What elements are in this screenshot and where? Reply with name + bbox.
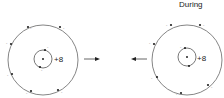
left-atom: +8 - - - - - - - - [6, 25, 78, 95]
arrow-left [131, 57, 147, 61]
svg-text:-: - [26, 90, 28, 95]
electron [59, 26, 61, 28]
electron [30, 90, 32, 92]
svg-text:-: - [203, 22, 205, 27]
svg-text:-: - [211, 84, 213, 89]
electron [153, 43, 155, 45]
svg-text:-: - [166, 22, 168, 27]
electron [44, 49, 46, 51]
electron [156, 76, 158, 78]
electron [11, 73, 13, 75]
svg-text:-: - [63, 25, 65, 30]
electron [10, 43, 12, 45]
electron [184, 47, 186, 49]
nucleus-charge: +8 [197, 54, 207, 63]
nucleus-charge: +8 [54, 55, 64, 64]
svg-text:-: - [47, 44, 49, 49]
svg-text:-: - [30, 25, 32, 30]
svg-text:-: - [149, 40, 151, 45]
electron [188, 65, 190, 67]
right-atom: +8 - - - - - - - [149, 22, 222, 96]
atom-diagram: +8 - - - - - - - - +8 - - - - - - - [0, 0, 224, 98]
svg-text:-: - [180, 44, 182, 49]
electron [57, 89, 59, 91]
electron [207, 84, 209, 86]
svg-text:-: - [6, 40, 8, 45]
electron [27, 26, 29, 28]
electron [180, 92, 182, 94]
nucleus-dot [186, 56, 188, 58]
svg-text:-: - [151, 75, 153, 80]
nucleus-dot [42, 58, 44, 60]
svg-text:-: - [7, 72, 9, 77]
arrow-right [84, 57, 100, 61]
electron [170, 24, 172, 26]
svg-text:-: - [61, 89, 63, 94]
electron [199, 24, 201, 26]
